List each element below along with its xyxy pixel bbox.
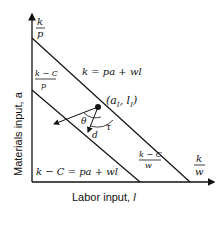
theta-arc [84,113,101,118]
y-intercept-outer-label: k p [36,16,45,39]
svg-text:w: w [145,161,152,170]
tau-label: τ [106,122,112,132]
y-intercept-inner-label: k − C p [35,69,58,90]
d-label: d [92,130,98,140]
x-intercept-outer-label: k w [194,153,205,177]
svg-text:k − C: k − C [139,150,162,159]
svg-text:k: k [196,153,202,164]
inner-line-equation: k − C = pa + wl [36,166,118,177]
theta-label: θ [81,116,87,126]
point-label: (aI, lI) [106,94,137,109]
x-intercept-inner-label: k − C w [139,150,162,170]
svg-text:p: p [41,81,46,90]
outer-line-equation: k = pa + wl [82,66,142,77]
x-axis-title: Labor input, l [72,191,136,203]
budget-constraint-diagram: k p k − C p k − C w k w k = pa + wl k − … [0,0,224,229]
svg-text:w: w [195,166,204,177]
y-axis-title: Materials input, a [12,91,24,176]
svg-text:p: p [37,28,44,39]
svg-text:k − C: k − C [35,69,58,78]
svg-text:k: k [37,16,43,27]
left-vector [54,107,98,124]
